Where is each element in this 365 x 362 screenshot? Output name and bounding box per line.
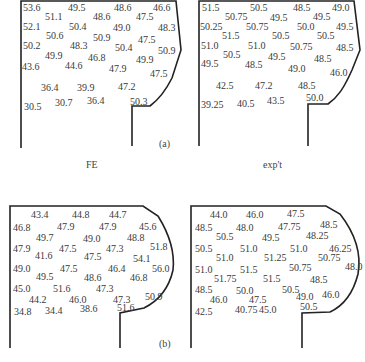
data-value: 43.5 <box>267 96 285 106</box>
data-value: 47.5 <box>150 69 168 79</box>
data-value: 51.5 <box>240 265 258 275</box>
data-value: 51.0 <box>290 244 308 254</box>
data-value: 49.7 <box>36 233 54 243</box>
data-value: 46.0 <box>322 290 340 300</box>
data-value: 50.5 <box>195 244 213 254</box>
data-value: 50.5 <box>216 232 234 242</box>
data-value: 49.0 <box>83 234 101 244</box>
data-value: 49.5 <box>262 233 280 243</box>
data-value: 50.75 <box>290 42 313 52</box>
data-value: 49.5 <box>201 59 219 69</box>
data-value: 46.8 <box>88 53 106 63</box>
data-value: 50.4 <box>69 22 87 32</box>
data-value: 48.8 <box>127 233 145 243</box>
data-value: 47.3 <box>96 284 114 294</box>
data-value: 49.0 <box>113 23 131 33</box>
data-value: 46.0 <box>330 68 348 78</box>
data-value: 49.9 <box>45 51 63 61</box>
data-value: 44.2 <box>29 295 47 305</box>
data-value: 46.6 <box>153 3 171 13</box>
data-value: 50.9 <box>145 292 163 302</box>
data-value: 56.0 <box>152 264 170 274</box>
data-value: 36.4 <box>41 83 59 93</box>
data-value: 49.0 <box>13 264 31 274</box>
data-value: 47.5 <box>136 12 154 22</box>
data-value: 39.9 <box>77 83 95 93</box>
data-value: 50.75 <box>225 12 248 22</box>
data-value: 50.5 <box>272 31 290 41</box>
data-value: 49.9 <box>136 55 154 65</box>
data-value: 50.3 <box>130 97 148 107</box>
data-value: 36.4 <box>87 96 105 106</box>
data-value: 48.5 <box>320 220 338 230</box>
data-value: 42.5 <box>216 81 234 91</box>
data-value: 49.0 <box>288 64 306 74</box>
data-value: 54.1 <box>133 254 151 264</box>
data-value: 51.5 <box>202 3 220 13</box>
data-value: 50.5 <box>250 3 268 13</box>
data-value: 48.6 <box>84 273 102 283</box>
data-value: 47.2 <box>118 82 136 92</box>
data-value: 46.8 <box>13 223 31 233</box>
data-value: 43.6 <box>22 62 40 72</box>
data-value: 51.0 <box>216 253 234 263</box>
data-value: 43.4 <box>31 210 49 220</box>
data-value: 30.7 <box>55 98 73 108</box>
data-value: 48.6 <box>93 12 111 22</box>
data-value: 48.25 <box>306 231 329 241</box>
data-value: 49.5 <box>336 22 354 32</box>
data-value: 49.5 <box>68 3 86 13</box>
data-value: 50.25 <box>200 22 223 32</box>
data-value: 50.75 <box>289 263 312 273</box>
data-value: 38.6 <box>80 304 98 314</box>
data-value: 51.25 <box>264 253 287 263</box>
data-value: 48.5 <box>298 81 316 91</box>
data-value: 51.0 <box>240 244 258 254</box>
panel-label-a: (a) <box>159 138 170 149</box>
data-value: 48.5 <box>310 275 328 285</box>
data-value: 30.5 <box>24 102 42 112</box>
data-value: 48.5 <box>245 60 263 70</box>
data-value: 45.0 <box>13 284 31 294</box>
data-value: 47.5 <box>59 244 77 254</box>
data-value: 44.0 <box>210 210 228 220</box>
data-value: 44.6 <box>65 61 83 71</box>
data-value: 47.9 <box>57 222 75 232</box>
data-value: 45.0 <box>259 305 277 315</box>
data-value: 47.9 <box>109 64 127 74</box>
data-value: 50.4 <box>115 43 133 53</box>
data-value: 49.5 <box>268 52 286 62</box>
data-value: 44.8 <box>72 210 90 220</box>
data-value: 42.5 <box>195 307 213 317</box>
data-value: 51.0 <box>195 265 213 275</box>
panel-label-b: (b) <box>159 338 171 349</box>
data-value: 50.5 <box>317 31 335 41</box>
data-value: 48.6 <box>114 3 132 13</box>
data-value: 50.75 <box>318 253 341 263</box>
data-value: 50.2 <box>23 41 41 51</box>
data-value: 46.4 <box>108 264 126 274</box>
data-value: 51.1 <box>45 12 63 22</box>
data-value: 47.2 <box>255 81 273 91</box>
data-value: 50.0 <box>297 22 315 32</box>
data-value: 49.0 <box>332 3 350 13</box>
data-value: 48.3 <box>158 23 176 33</box>
data-value: 47.75 <box>278 222 301 232</box>
data-value: 48.5 <box>293 3 311 13</box>
caption-exp: exp't <box>263 159 282 170</box>
data-value: 50.9 <box>93 33 111 43</box>
data-value: 48.0 <box>236 223 254 233</box>
data-value: 40.5 <box>237 99 255 109</box>
data-value: 50.9 <box>158 46 176 56</box>
data-value: 39.25 <box>201 100 224 110</box>
data-value: 47.5 <box>287 209 305 219</box>
data-value: 47.5 <box>84 252 102 262</box>
data-value: 53.6 <box>23 3 41 13</box>
data-value: 49.5 <box>36 272 54 282</box>
data-value: 51.5 <box>222 31 240 41</box>
data-value: 48.5 <box>314 54 332 64</box>
data-value: 50.5 <box>223 50 241 60</box>
data-value: 50.0 <box>306 93 324 103</box>
data-value: 48.0 <box>345 262 363 272</box>
data-value: 34.8 <box>14 307 32 317</box>
